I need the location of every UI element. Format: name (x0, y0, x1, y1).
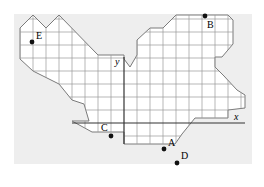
svg-text:A: A (168, 137, 176, 148)
x-axis-label: x (233, 111, 239, 122)
svg-text:C: C (101, 122, 108, 133)
svg-text:E: E (36, 30, 42, 41)
y-axis-label: y (114, 56, 120, 67)
svg-text:D: D (181, 150, 188, 161)
diagram: y x A B C D E (0, 0, 264, 187)
svg-text:B: B (207, 19, 214, 30)
